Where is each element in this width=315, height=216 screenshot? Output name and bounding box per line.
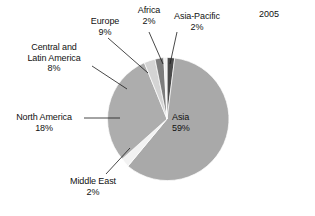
slice-label-europe-percent: 9% <box>85 27 125 38</box>
slice-label-north-america-percent: 18% <box>6 123 82 134</box>
slice-label-asia: Asia 59% <box>172 112 206 133</box>
slice-label-europe: Europe 9% <box>85 16 125 37</box>
slice-label-asia-name: Asia <box>172 112 189 122</box>
slice-label-middle-east-name: Middle East <box>70 176 116 186</box>
slice-label-asia-percent: 59% <box>172 123 206 134</box>
slice-label-cla-percent: 8% <box>16 63 92 74</box>
pie-chart-figure: 2005 Europe 9% Africa 2% Asia-Pacific 2%… <box>0 0 315 216</box>
slice-label-asia-pacific-percent: 2% <box>167 22 227 33</box>
slice-label-middle-east-percent: 2% <box>62 187 124 198</box>
slice-label-north-america: North America 18% <box>6 112 82 133</box>
slice-label-north-america-name: North America <box>16 112 72 122</box>
leader-line-central-and-latin-america <box>92 66 127 89</box>
slice-label-middle-east: Middle East 2% <box>62 176 124 197</box>
slice-label-africa-name: Africa <box>138 5 160 15</box>
slice-label-asia-pacific: Asia-Pacific 2% <box>167 11 227 32</box>
slice-label-cla-line2: Latin America <box>16 53 92 64</box>
slice-label-africa-percent: 2% <box>130 16 168 27</box>
slice-label-asia-pacific-name: Asia-Pacific <box>174 11 220 21</box>
pie-chart-graphic <box>0 0 315 216</box>
slice-label-cla-line1: Central and <box>31 42 76 52</box>
slice-label-africa: Africa 2% <box>130 5 168 26</box>
year-label: 2005 <box>259 9 279 19</box>
leader-line-europe <box>108 38 148 73</box>
slice-label-europe-name: Europe <box>91 16 119 26</box>
slice-label-central-and-latin-america: Central and Latin America 8% <box>16 42 92 74</box>
